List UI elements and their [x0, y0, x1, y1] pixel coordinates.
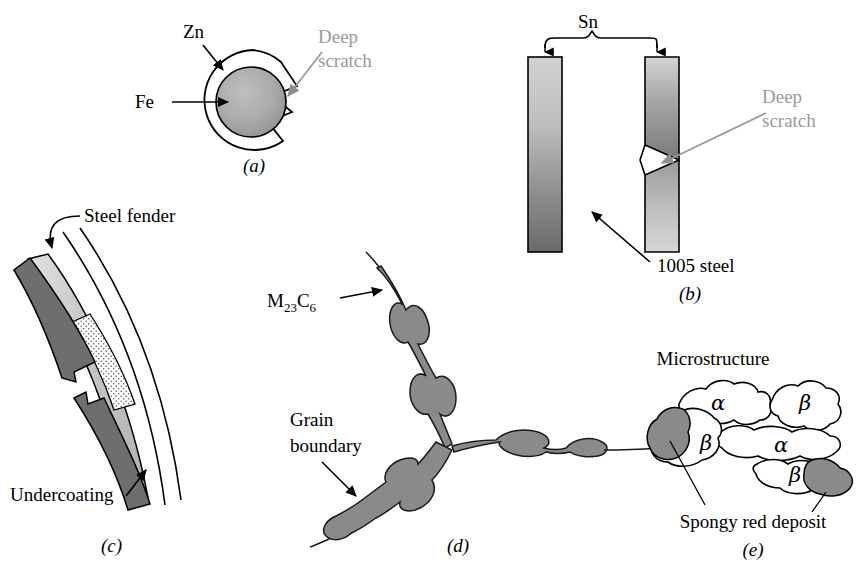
steel-fender-leader [50, 216, 80, 248]
sn-bracket [545, 31, 657, 48]
spongy-deposit-label: Spongy red deposit [680, 511, 827, 532]
grain-boundary-leader [322, 462, 356, 496]
undercoating-label: Undercoating [10, 484, 114, 505]
deep-scratch-label-a-line2: scratch [318, 50, 372, 71]
grain-label-beta-lower-right: β [788, 463, 801, 487]
carbide-label-c: C [297, 290, 310, 311]
spongy-deposit-right [804, 458, 853, 496]
carbide-label-sub6: 6 [310, 300, 317, 315]
deep-scratch-label-b-line2: scratch [762, 110, 816, 131]
grain-label-beta-lower-left: β [699, 431, 712, 455]
grain-boundary-branch-lower [324, 442, 452, 540]
panel-c: Steel fender Undercoating (c) [10, 205, 181, 557]
grain-label-beta-top: β [798, 391, 811, 415]
sn-plate-left [528, 57, 562, 252]
steel-1005-leader [592, 212, 650, 262]
panel-label-a: (a) [243, 155, 265, 177]
spongy-deposit-leader-right-line [812, 492, 826, 512]
panel-label-d: (d) [447, 535, 469, 557]
deep-scratch-leader-a [288, 52, 322, 96]
corrosion-figure: Zn Fe Deep scratch (a) Sn Deep scratch 1… [0, 0, 866, 573]
panel-label-c: (c) [101, 535, 122, 557]
panel-b: Sn Deep scratch 1005 steel (b) [528, 11, 816, 305]
carbide-label: M23C6 [267, 290, 317, 315]
grain-boundary-label-line1: Grain [290, 409, 334, 430]
zn-leader [203, 45, 223, 70]
zn-label: Zn [183, 21, 205, 42]
carbide-leader [340, 290, 382, 298]
grain-boundary-line-upper-tail [366, 252, 379, 267]
grain-boundary-line-lower-tail [310, 539, 329, 547]
panel-label-b: (b) [679, 283, 701, 305]
steel-1005-label: 1005 steel [657, 255, 735, 276]
sn-plate-right-notch [640, 145, 645, 175]
panel-label-e: (e) [742, 539, 763, 561]
deep-scratch-label-b-line1: Deep [762, 86, 802, 107]
carbide-label-sub23: 23 [284, 300, 297, 315]
carbide-label-m: M [267, 290, 284, 311]
grain-boundary-branch-right [452, 430, 607, 457]
sn-plate-right-lower [645, 160, 679, 252]
grain-label-alpha-middle: α [774, 433, 788, 457]
grain-boundary-label-line2: boundary [290, 435, 362, 456]
microstructure-label: Microstructure [657, 348, 770, 369]
fe-label: Fe [135, 91, 154, 112]
sn-label: Sn [578, 11, 599, 32]
panel-a: Zn Fe Deep scratch (a) [135, 21, 372, 177]
grain-boundary-branch-upper [377, 266, 456, 448]
spongy-deposit-left [647, 407, 690, 459]
sn-plate-right-upper [645, 57, 679, 160]
panel-d: M23C6 Grain boundary (d) [267, 252, 660, 557]
steel-fender-label: Steel fender [84, 205, 176, 226]
grain-label-alpha-top: α [711, 391, 725, 415]
deep-scratch-label-a-line1: Deep [318, 26, 358, 47]
